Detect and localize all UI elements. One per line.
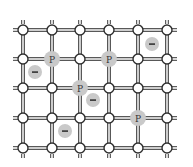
left-stub	[13, 87, 18, 90]
silicon-atom	[133, 143, 143, 153]
free-electron-minus-icon	[28, 65, 42, 79]
left-stub	[13, 58, 18, 61]
vertical-bond	[137, 35, 140, 54]
silicon-atom	[18, 25, 28, 35]
silicon-atom	[162, 25, 172, 35]
silicon-atom	[47, 113, 57, 123]
silicon-atom	[133, 83, 143, 93]
vertical-bond	[79, 35, 82, 54]
silicon-atom	[75, 25, 85, 35]
right-stub	[172, 58, 177, 61]
horizontal-bond	[85, 29, 104, 32]
top-stub	[108, 20, 111, 24]
silicon-atom	[75, 143, 85, 153]
horizontal-bond	[28, 87, 47, 90]
top-stub	[166, 20, 169, 24]
silicon-atom	[18, 113, 28, 123]
bottom-stub	[79, 154, 82, 158]
horizontal-bond	[28, 117, 47, 120]
silicon-atom	[162, 54, 172, 64]
horizontal-bond	[57, 147, 75, 150]
bottom-stub	[137, 154, 140, 158]
vertical-bond	[79, 123, 82, 143]
silicon-atom	[104, 83, 114, 93]
free-electron-minus-icon	[58, 124, 72, 138]
top-stub	[137, 20, 140, 24]
silicon-atom	[133, 54, 143, 64]
horizontal-bond	[57, 29, 75, 32]
vertical-bond	[51, 93, 54, 113]
vertical-bond	[51, 123, 54, 143]
free-electron-minus-icon	[86, 93, 100, 107]
dopant-atom-phosphorus: P	[101, 51, 117, 67]
horizontal-bond	[143, 58, 162, 61]
silicon-atom	[47, 143, 57, 153]
horizontal-bond	[114, 29, 133, 32]
silicon-atom	[47, 83, 57, 93]
top-stub	[79, 20, 82, 24]
silicon-atom	[18, 54, 28, 64]
horizontal-bond	[114, 87, 133, 90]
vertical-bond	[166, 64, 169, 83]
vertical-bond	[166, 35, 169, 54]
silicon-atom	[75, 54, 85, 64]
bottom-stub	[51, 154, 54, 158]
vertical-bond	[22, 93, 25, 113]
horizontal-bond	[143, 29, 162, 32]
silicon-atom	[162, 83, 172, 93]
horizontal-bond	[143, 147, 162, 150]
vertical-bond	[137, 64, 140, 83]
horizontal-bond	[28, 147, 47, 150]
vertical-bond	[108, 93, 111, 113]
free-electron-minus-icon	[145, 37, 159, 51]
vertical-bond	[22, 64, 25, 83]
silicon-atom	[75, 113, 85, 123]
vertical-bond	[22, 123, 25, 143]
dopant-atom-phosphorus: P	[44, 51, 60, 67]
left-stub	[13, 117, 18, 120]
left-stub	[13, 147, 18, 150]
silicon-atom	[162, 113, 172, 123]
bottom-stub	[166, 154, 169, 158]
vertical-bond	[22, 35, 25, 54]
dopant-atom-phosphorus: P	[72, 80, 88, 96]
vertical-bond	[166, 123, 169, 143]
dopant-label: P	[106, 55, 112, 65]
top-stub	[51, 20, 54, 24]
vertical-bond	[166, 93, 169, 113]
horizontal-bond	[85, 147, 104, 150]
vertical-bond	[108, 123, 111, 143]
bottom-stub	[108, 154, 111, 158]
horizontal-bond	[57, 117, 75, 120]
silicon-atom	[104, 25, 114, 35]
silicon-atom	[18, 143, 28, 153]
silicon-atom	[104, 143, 114, 153]
top-stub	[22, 20, 25, 24]
dopant-atom-phosphorus: P	[130, 110, 146, 126]
left-stub	[13, 29, 18, 32]
dopant-label: P	[77, 84, 83, 94]
dopant-label: P	[135, 114, 141, 124]
silicon-atom	[18, 83, 28, 93]
silicon-atom	[47, 25, 57, 35]
horizontal-bond	[85, 117, 104, 120]
bottom-stub	[22, 154, 25, 158]
right-stub	[172, 147, 177, 150]
dopant-label: P	[49, 55, 55, 65]
horizontal-bond	[143, 87, 162, 90]
right-stub	[172, 29, 177, 32]
semiconductor-lattice-diagram: PPPP	[0, 0, 193, 167]
silicon-atom	[133, 25, 143, 35]
horizontal-bond	[28, 29, 47, 32]
horizontal-bond	[114, 147, 133, 150]
right-stub	[172, 117, 177, 120]
silicon-atom	[104, 113, 114, 123]
right-stub	[172, 87, 177, 90]
silicon-atom	[162, 143, 172, 153]
